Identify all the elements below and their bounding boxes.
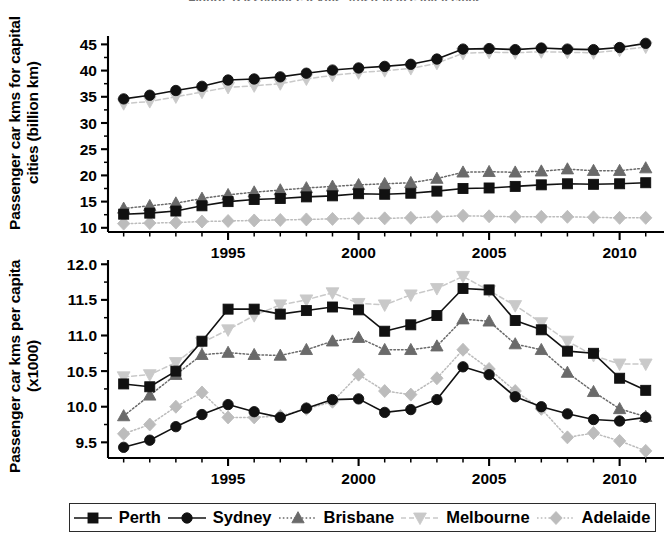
- legend-marker-triangle-up-icon: [276, 508, 320, 528]
- legend-label-perth: Perth: [115, 508, 165, 527]
- svg-text:2005: 2005: [472, 470, 507, 487]
- legend-item-brisbane[interactable]: Brisbane: [276, 508, 399, 528]
- legend-marker-circle-icon: [165, 508, 209, 528]
- svg-text:20: 20: [80, 167, 97, 184]
- legend-item-melbourne[interactable]: Melbourne: [398, 508, 533, 528]
- svg-text:45: 45: [80, 36, 98, 53]
- svg-text:2000: 2000: [341, 470, 375, 487]
- legend-item-perth[interactable]: Perth: [71, 508, 165, 528]
- legend-marker-square-icon: [71, 508, 115, 528]
- bottom-chart-svg: 9.510.010.511.011.512.01995200020052010: [52, 250, 670, 498]
- top-chart-svg: 10152025303540451995200020052010: [52, 10, 670, 258]
- legend-label-sydney: Sydney: [209, 508, 276, 527]
- legend-item-adelaide[interactable]: Adelaide: [534, 508, 655, 528]
- svg-text:11.0: 11.0: [68, 327, 97, 344]
- svg-text:1995: 1995: [211, 470, 246, 487]
- legend-item-sydney[interactable]: Sydney: [165, 508, 276, 528]
- svg-text:40: 40: [80, 62, 97, 79]
- legend-label-adelaide: Adelaide: [578, 508, 655, 527]
- svg-text:10: 10: [80, 219, 97, 236]
- figure-title-text: Figure: Passenger car kms, Australian ca…: [0, 0, 670, 1]
- bottom-chart-panel: 9.510.010.511.011.512.01995200020052010: [52, 250, 670, 498]
- svg-text:12.0: 12.0: [67, 256, 97, 273]
- top-chart-y-axis-label: Passenger car kms for capital cities (bi…: [6, 14, 52, 232]
- svg-text:30: 30: [80, 115, 97, 132]
- svg-text:25: 25: [80, 141, 98, 158]
- svg-text:10.5: 10.5: [67, 363, 98, 380]
- figure-title-clipped: Figure: Passenger car kms, Australian ca…: [0, 0, 670, 8]
- bottom-chart-y-axis-label: Passenger car kms per capita (x1000): [6, 258, 52, 474]
- legend-label-melbourne: Melbourne: [442, 508, 533, 527]
- svg-text:9.5: 9.5: [75, 434, 97, 451]
- svg-text:10.0: 10.0: [67, 398, 97, 415]
- figure-root: Figure: Passenger car kms, Australian ca…: [0, 0, 670, 537]
- svg-text:2010: 2010: [602, 470, 636, 487]
- top-chart-panel: 10152025303540451995200020052010: [52, 10, 670, 258]
- legend-marker-triangle-down-icon: [398, 508, 442, 528]
- svg-text:11.5: 11.5: [68, 291, 98, 308]
- svg-text:15: 15: [80, 193, 98, 210]
- legend-marker-diamond-icon: [534, 508, 578, 528]
- svg-text:35: 35: [80, 88, 98, 105]
- legend-label-brisbane: Brisbane: [320, 508, 399, 527]
- legend: Perth Sydney Brisbane Melbourne Adelaide: [69, 503, 656, 532]
